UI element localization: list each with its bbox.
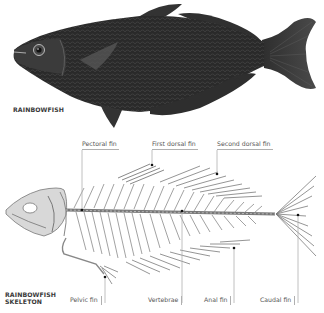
leader-dots <box>81 164 300 279</box>
skeleton-title-line2: SKELETON <box>5 298 42 306</box>
rainbowfish-diagram: RAINBOWFISH RAINBOWFISH SKELETON Pectora… <box>0 0 324 313</box>
label-pectoral-fin: Pectoral fin <box>82 140 119 150</box>
fish-illustrations <box>0 0 324 313</box>
label-first-dorsal-fin: First dorsal fin <box>152 140 198 150</box>
rainbowfish-skeleton-illustration <box>6 164 316 284</box>
leader-lines <box>82 150 298 303</box>
label-caudal-fin: Caudal fin <box>260 296 295 305</box>
label-pelvic-fin: Pelvic fin <box>70 296 102 305</box>
rainbowfish-title: RAINBOWFISH <box>13 106 64 114</box>
label-second-dorsal-fin: Second dorsal fin <box>217 140 273 150</box>
label-vertebrae: Vertebrae <box>148 296 182 305</box>
label-anal-fin: Anal fin <box>204 296 231 305</box>
